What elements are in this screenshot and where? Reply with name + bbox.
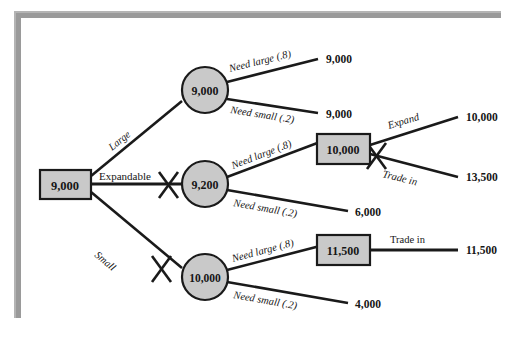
node-small-value: 10,000 <box>189 272 221 284</box>
payoff-1: 9,000 <box>326 53 352 65</box>
branch-label-need-large-1: Need large (.8) <box>227 48 293 75</box>
node-expandable-value: 9,200 <box>192 178 219 192</box>
payoff-3: 6,000 <box>355 206 381 218</box>
decision-tree-figure: 9,000 9,000 9,200 10,000 10,000 11,500 L… <box>0 0 512 340</box>
payoff-2: 9,000 <box>326 108 352 120</box>
branch-label-trade-in-1: Trade in <box>382 168 419 187</box>
prune-x-small <box>152 256 171 282</box>
node-decision-11500-value: 11,500 <box>327 244 359 258</box>
branch-label-expandable: Expandable <box>99 170 151 182</box>
payoff-5: 13,500 <box>466 171 498 183</box>
branch-label-small: Small <box>93 249 118 273</box>
branch-label-expand: Expand <box>385 111 421 131</box>
node-large-value: 9,000 <box>192 84 219 98</box>
decision-tree-canvas: 9,000 9,000 9,200 10,000 10,000 11,500 L… <box>0 0 512 340</box>
payoff-6: 4,000 <box>355 298 381 310</box>
branch-label-trade-in-2: Trade in <box>390 234 426 245</box>
node-root-value: 9,000 <box>51 179 79 193</box>
branch-label-large: Large <box>106 128 133 153</box>
line-root-large <box>91 101 182 176</box>
branch-labels: Large Expandable Small Need large (.8) N… <box>93 48 426 312</box>
payoff-7: 11,500 <box>466 244 497 256</box>
payoff-4: 10,000 <box>466 111 498 123</box>
node-decision-10000-value: 10,000 <box>327 143 360 157</box>
